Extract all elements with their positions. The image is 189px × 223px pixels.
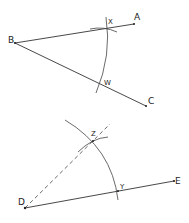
label-e: E [175, 176, 181, 186]
bottom-figure: D E Y Z [18, 120, 181, 209]
ray-bc [15, 43, 146, 106]
label-d: D [18, 197, 25, 207]
ray-ba [15, 24, 134, 43]
point-b [14, 42, 16, 44]
ray-de [25, 181, 174, 208]
point-z [92, 140, 94, 142]
dashed-ray-dz [25, 124, 110, 208]
small-arc-z [78, 137, 108, 152]
label-b: B [8, 35, 14, 45]
point-d [24, 207, 26, 209]
label-a: A [134, 12, 141, 22]
point-a [133, 23, 135, 25]
label-x: X [108, 18, 113, 26]
point-y [117, 190, 119, 192]
top-figure: B A C X W [8, 12, 154, 107]
angle-construction-diagram: B A C X W D E Y Z [0, 0, 189, 223]
label-z: Z [91, 130, 96, 138]
label-w: W [104, 79, 111, 87]
point-c [145, 105, 147, 107]
label-c: C [148, 96, 154, 106]
label-y: Y [119, 183, 125, 191]
